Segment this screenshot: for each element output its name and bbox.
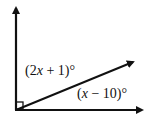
lower-angle-label: (x − 10)°: [77, 86, 127, 102]
upper-angle-prefix: (2: [25, 63, 37, 79]
upper-angle-label: (2x + 1)°: [25, 63, 75, 79]
upper-angle-suffix: + 1)°: [43, 63, 75, 79]
lower-angle-suffix: − 10)°: [88, 86, 127, 102]
angle-diagram: (2x + 1)° (x − 10)°: [0, 0, 148, 119]
